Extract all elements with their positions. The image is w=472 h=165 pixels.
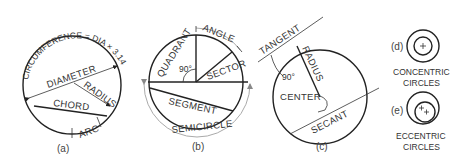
chord-label: CHORD <box>53 97 90 112</box>
caption-e: (e) <box>391 105 403 116</box>
circle-terminology-diagram: CIRCUMFERENCE = DIA × 3.1416 DIAMETER RA… <box>0 0 472 165</box>
panel-e: (e) ECCENTRIC CIRCLES <box>391 92 446 152</box>
center-label: CENTER <box>280 91 321 102</box>
arc-label: ARC <box>77 122 100 140</box>
caption-d: (d) <box>391 41 403 52</box>
panel-b: ANGLE QUADRANT 90° SECTOR SEGMENT SEMICI… <box>144 22 250 152</box>
sector-label: SECTOR <box>205 57 247 81</box>
caption-c: (c) <box>316 141 328 152</box>
caption-a: (a) <box>57 143 69 154</box>
concentric-title-1: CONCENTRIC <box>393 67 450 77</box>
right-angle-label-b: 90° <box>179 64 192 74</box>
secant-label: SECANT <box>309 108 350 136</box>
segment-label: SEGMENT <box>168 95 218 116</box>
eccentric-title-1: ECCENTRIC <box>396 131 446 141</box>
panel-d: (d) CONCENTRIC CIRCLES <box>391 30 450 88</box>
angle-tick <box>237 46 242 52</box>
caption-b: (b) <box>192 141 204 152</box>
right-angle-label-c: 90° <box>282 72 295 82</box>
eccentric-title-2: CIRCLES <box>403 142 440 152</box>
panel-c: TANGENT RADIUS 90° CENTER SECANT (c) <box>257 17 379 152</box>
tangent-label: TANGENT <box>257 22 302 57</box>
semicircle-label: SEMICIRCLE <box>171 118 233 135</box>
concentric-title-2: CIRCLES <box>403 78 440 88</box>
panel-a: CIRCUMFERENCE = DIA × 3.1416 DIAMETER RA… <box>0 0 129 154</box>
